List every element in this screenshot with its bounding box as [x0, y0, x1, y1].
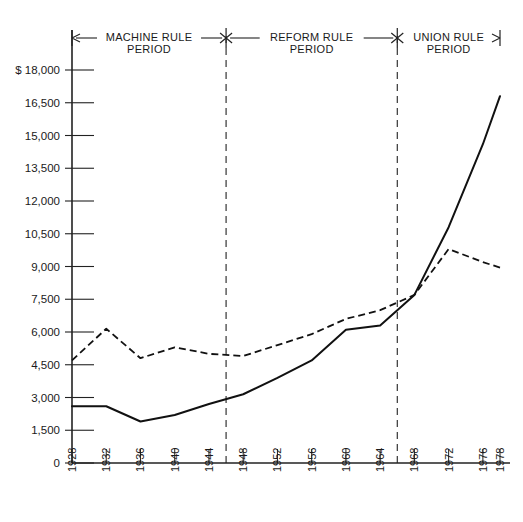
- x-axis-tick-label: 1940: [169, 448, 181, 472]
- x-axis-tick-label: 1978: [494, 448, 506, 472]
- y-axis-tick-label: 3,000: [31, 392, 60, 404]
- y-axis-tick-label: 13,500: [25, 162, 60, 174]
- x-axis-tick-label: 1948: [237, 448, 249, 472]
- period-label-line2-machine-rule-period: PERIOD: [127, 43, 171, 55]
- x-axis-tick-label: 1968: [408, 448, 420, 472]
- x-axis-tick-label: 1956: [306, 448, 318, 472]
- y-axis-tick-label: $ 18,000: [15, 64, 60, 76]
- y-axis-group: [65, 30, 94, 463]
- y-axis-tick-label: 6,000: [31, 326, 60, 338]
- series-line-dashed-series: [72, 249, 500, 360]
- x-axis-tick-label: 1928: [66, 448, 78, 472]
- period-divider-group: [226, 36, 397, 463]
- period-bracket-group: MACHINE RULEPERIODREFORM RULEPERIODUNION…: [72, 28, 500, 55]
- x-axis-tick-label: 1952: [271, 448, 283, 472]
- x-axis-tick-label-group: 1928193219361940194419481952195619601964…: [66, 448, 506, 472]
- y-axis-tick-label: 9,000: [31, 261, 60, 273]
- x-axis-tick-label: 1976: [477, 448, 489, 472]
- line-chart-svg: MACHINE RULEPERIODREFORM RULEPERIODUNION…: [0, 0, 523, 522]
- y-axis-tick-label: 16,500: [25, 97, 60, 109]
- y-axis-tick-label: 0: [54, 457, 60, 469]
- y-axis-tick-label: 7,500: [31, 293, 60, 305]
- y-axis-tick-label: 4,500: [31, 359, 60, 371]
- x-axis-tick-label: 1960: [340, 448, 352, 472]
- y-axis-tick-label: 1,500: [31, 424, 60, 436]
- x-axis-tick-label: 1932: [100, 448, 112, 472]
- period-label-line2-union-rule-period: PERIOD: [427, 43, 471, 55]
- data-series-group: [72, 96, 500, 421]
- chart-container: MACHINE RULEPERIODREFORM RULEPERIODUNION…: [0, 0, 523, 522]
- x-axis-tick-label: 1936: [134, 448, 146, 472]
- bracket-arrow-right-icon: [492, 34, 500, 42]
- x-axis-tick-label: 1972: [443, 448, 455, 472]
- y-axis-tick-label: 10,500: [25, 228, 60, 240]
- period-label-line1-union-rule-period: UNION RULE: [413, 31, 484, 43]
- period-label-line2-reform-rule-period: PERIOD: [290, 43, 334, 55]
- period-label-line1-reform-rule-period: REFORM RULE: [270, 31, 353, 43]
- period-label-line1-machine-rule-period: MACHINE RULE: [106, 31, 193, 43]
- y-axis-tick-label-group: 01,5003,0004,5006,0007,5009,00010,50012,…: [15, 64, 60, 469]
- series-line-solid-series: [72, 96, 500, 421]
- x-axis-tick-label: 1944: [203, 448, 215, 472]
- y-axis-tick-label: 12,000: [25, 195, 60, 207]
- y-axis-tick-label: 15,000: [25, 130, 60, 142]
- x-axis-tick-label: 1964: [374, 448, 386, 472]
